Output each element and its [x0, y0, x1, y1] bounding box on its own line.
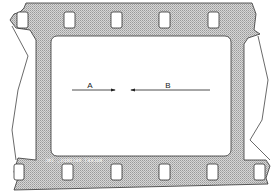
- sprocket-hole: [208, 12, 219, 28]
- sprocket-hole: [64, 12, 75, 28]
- sprocket-hole: [111, 164, 122, 180]
- sprocket-hole: [14, 164, 24, 180]
- left-torn-edge: [12, 26, 28, 160]
- sprocket-hole: [207, 164, 218, 180]
- sprocket-hole: [17, 12, 28, 28]
- label-b: B: [165, 81, 170, 90]
- sprocket-hole: [111, 12, 122, 28]
- frame-window: [51, 36, 231, 156]
- sprocket-hole: [62, 164, 73, 180]
- sprocket-hole: [254, 164, 265, 180]
- sprocket-hole: [159, 164, 170, 180]
- label-a: A: [87, 81, 93, 90]
- right-torn-edge: [250, 36, 270, 160]
- film-strip-diagram: A B ROCKET RECORDS, INC: [0, 0, 278, 196]
- sprocket-hole: [159, 12, 170, 28]
- edge-print-text: ROCKET RECORDS, INC: [45, 158, 102, 163]
